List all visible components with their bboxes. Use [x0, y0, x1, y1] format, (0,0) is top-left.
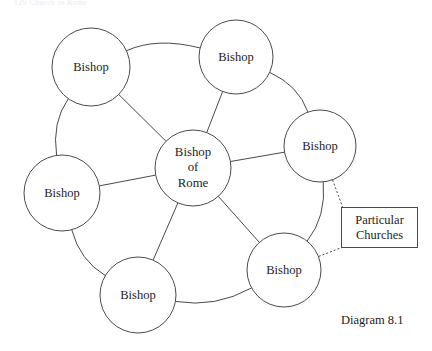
- ring-arc: [270, 72, 308, 112]
- ring-arc: [175, 288, 251, 303]
- spoke-bishop-top-left: [119, 94, 166, 141]
- ring-arc: [126, 43, 200, 51]
- node-circle-bishop-left: [24, 155, 100, 231]
- leader-line-bishop-bottom-right: [318, 247, 343, 257]
- leader-line-bishop-right: [333, 180, 343, 208]
- spoke-bishop-right: [230, 152, 284, 161]
- node-circle-group: [24, 20, 356, 333]
- spoke-bishop-bottom-left: [153, 203, 178, 260]
- spoke-bishop-top-right: [207, 92, 223, 133]
- ring-arc: [56, 99, 69, 156]
- node-circle-bishop-top-right: [199, 20, 273, 94]
- figure-caption: Diagram 8.1: [341, 313, 403, 328]
- spoke-bishop-bottom-right: [218, 196, 259, 242]
- spoke-bishop-left: [99, 175, 155, 186]
- hub-circle-bishop-of-rome: [155, 130, 231, 206]
- node-circle-bishop-right: [284, 110, 356, 182]
- ring-arc: [307, 182, 324, 241]
- node-circle-bishop-top-left: [52, 28, 130, 106]
- leader-line-group: [318, 180, 343, 257]
- diagram-canvas: [0, 0, 432, 351]
- node-circle-bishop-bottom-right: [247, 233, 321, 307]
- callout-box-label: Particular Churches: [355, 213, 404, 243]
- callout-box-particular-churches: Particular Churches: [341, 207, 418, 248]
- ring-arc: [72, 230, 106, 276]
- node-circle-bishop-bottom-left: [100, 257, 176, 333]
